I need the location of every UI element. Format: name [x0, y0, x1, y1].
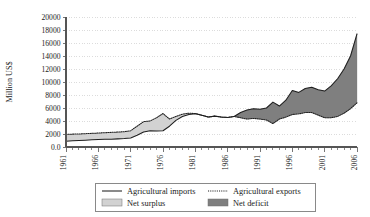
y-tick-label: 6000 — [45, 104, 60, 113]
legend-item-net-surplus: Net surplus — [102, 199, 165, 208]
x-tick-label: 2006 — [350, 155, 359, 170]
y-axis-title: Million US$ — [5, 61, 14, 102]
y-tick-label: 16000 — [42, 39, 61, 48]
y-axis-title-text: Million US$ — [5, 61, 14, 102]
x-tick-label: 1966 — [91, 155, 100, 170]
x-tick-label: 2001 — [318, 155, 327, 170]
y-tick-label: 8000 — [45, 91, 60, 100]
legend-label-imports: Agricultural imports — [127, 187, 196, 196]
surplus-swatch-icon — [102, 199, 122, 206]
deficit-swatch-icon — [208, 199, 228, 206]
legend-label-net-surplus: Net surplus — [127, 199, 165, 208]
x-axis-ticks: 1961196619711976198119861991199620012006 — [59, 147, 359, 170]
legend-label-net-deficit: Net deficit — [233, 199, 269, 208]
y-tick-label: 12000 — [42, 65, 61, 74]
x-tick-label: 1991 — [253, 155, 262, 170]
chart-figure: 0.02000400060008000100001200014000160001… — [0, 0, 370, 217]
x-tick-label: 1981 — [188, 155, 197, 170]
x-tick-label: 1996 — [285, 155, 294, 170]
x-tick-label: 1976 — [156, 155, 165, 170]
y-tick-label: 20000 — [42, 13, 61, 22]
y-axis-ticks: 0.02000400060008000100001200014000160001… — [42, 13, 66, 152]
legend-label-exports: Agricultural exports — [233, 187, 301, 196]
agricultural-trade-chart: 0.02000400060008000100001200014000160001… — [0, 0, 370, 217]
y-tick-label: 18000 — [42, 26, 61, 35]
x-tick-label: 1986 — [221, 155, 230, 170]
legend-item-net-deficit: Net deficit — [208, 199, 269, 208]
y-tick-label: 14000 — [42, 52, 61, 61]
y-tick-label: 0.0 — [51, 143, 61, 152]
chart-legend: Agricultural imports Agricultural export… — [95, 183, 315, 211]
x-tick-label: 1971 — [124, 155, 133, 170]
y-tick-label: 10000 — [42, 78, 61, 87]
x-tick-label: 1961 — [59, 155, 68, 170]
y-tick-label: 4000 — [45, 117, 60, 126]
y-tick-label: 2000 — [45, 130, 60, 139]
